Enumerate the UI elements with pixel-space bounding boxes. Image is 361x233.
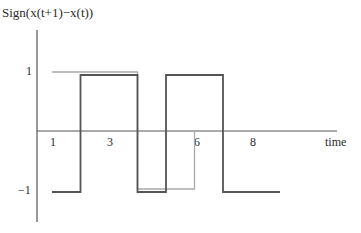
x-tick-label: 1: [50, 135, 56, 149]
x-tick-label: 3: [107, 135, 113, 149]
series-layer: [52, 72, 280, 192]
y-tick-label: 1: [26, 64, 32, 78]
y-tick-label: −1: [18, 183, 31, 197]
y-axis-label: Sign(x(t+1)−x(t)): [2, 5, 93, 20]
x-axis-label: time: [325, 135, 346, 149]
x-tick-label: 8: [250, 135, 256, 149]
chart: Sign(x(t+1)−x(t)) time 1 −1 1 3 6 8: [0, 0, 361, 233]
series-dark-line: [52, 75, 280, 192]
